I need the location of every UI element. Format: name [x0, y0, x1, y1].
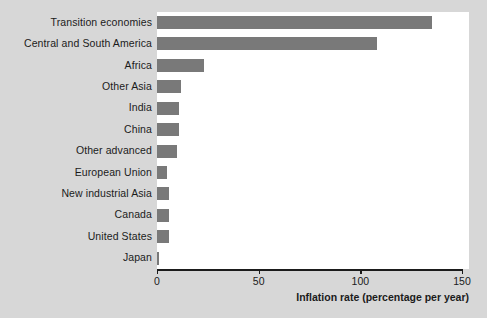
x-tick — [360, 269, 361, 274]
category-label: Transition economies — [0, 16, 152, 28]
bar — [157, 145, 177, 158]
bar — [157, 209, 169, 222]
bar — [157, 16, 432, 29]
x-axis-title: Inflation rate (percentage per year) — [0, 291, 469, 303]
category-label: Africa — [0, 59, 152, 71]
category-label: European Union — [0, 166, 152, 178]
bar — [157, 166, 167, 179]
x-tick — [259, 269, 260, 274]
plot-area — [157, 12, 469, 269]
category-axis-labels: Transition economiesCentral and South Am… — [0, 12, 152, 269]
x-axis-line — [157, 269, 462, 271]
bar — [157, 230, 169, 243]
category-label: Japan — [0, 251, 152, 263]
bars-layer — [157, 12, 469, 269]
category-label: Other advanced — [0, 144, 152, 156]
category-label: China — [0, 123, 152, 135]
x-tick-label: 50 — [253, 275, 265, 287]
x-tick-label: 150 — [453, 275, 471, 287]
category-label: New industrial Asia — [0, 187, 152, 199]
bar — [157, 80, 181, 93]
bar — [157, 123, 179, 136]
x-tick-label: 0 — [154, 275, 160, 287]
inflation-rate-bar-chart: Transition economiesCentral and South Am… — [0, 0, 487, 318]
category-label: Canada — [0, 208, 152, 220]
category-label: Central and South America — [0, 37, 152, 49]
bar — [157, 187, 169, 200]
category-label: Other Asia — [0, 80, 152, 92]
bar — [157, 102, 179, 115]
bar — [157, 37, 377, 50]
x-tick-label: 100 — [352, 275, 370, 287]
category-label: India — [0, 101, 152, 113]
category-label: United States — [0, 230, 152, 242]
bar — [157, 252, 159, 265]
x-tick — [157, 269, 158, 274]
bar — [157, 59, 204, 72]
x-tick — [462, 269, 463, 274]
